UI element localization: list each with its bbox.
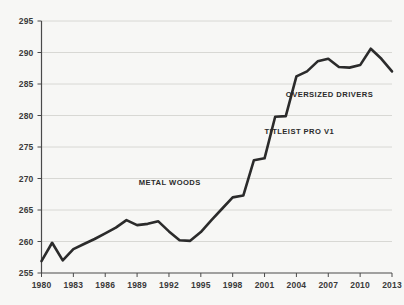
y-tick-label: 260 [19, 237, 34, 247]
y-tick-label: 295 [19, 16, 34, 26]
x-tick-label: 2010 [350, 280, 370, 290]
annotation-label: METAL WOODS [139, 178, 201, 187]
chart-container: 255260265270275280285290295 198019831986… [0, 0, 404, 305]
x-tick-label: 1983 [64, 280, 84, 290]
x-tick-label: 1992 [159, 280, 179, 290]
x-tick-label: 1989 [127, 280, 147, 290]
x-tick-label: 2001 [255, 280, 275, 290]
y-tick-label: 255 [19, 268, 34, 278]
line-chart: 255260265270275280285290295 198019831986… [0, 0, 404, 305]
x-tick-label: 1980 [32, 280, 52, 290]
y-tick-label: 290 [19, 48, 34, 58]
x-tick-label: 2007 [318, 280, 338, 290]
y-axis-tick-labels: 255260265270275280285290295 [19, 16, 34, 278]
x-tick-label: 2013 [382, 280, 402, 290]
y-tick-label: 285 [19, 79, 34, 89]
x-tick-label: 1995 [191, 280, 211, 290]
annotation-label: OVERSIZED DRIVERS [286, 90, 373, 99]
x-tick-label: 1986 [95, 280, 115, 290]
y-tick-label: 280 [19, 111, 34, 121]
x-tick-label: 1998 [223, 280, 243, 290]
annotation-label: TITLEIST PRO V1 [265, 127, 335, 136]
x-tick-label: 2004 [287, 280, 307, 290]
y-tick-label: 265 [19, 205, 34, 215]
y-tick-label: 270 [19, 174, 34, 184]
y-tick-label: 275 [19, 142, 34, 152]
